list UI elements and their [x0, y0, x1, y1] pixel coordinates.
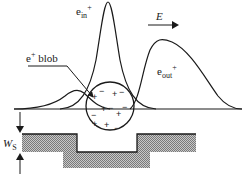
- charge: +: [101, 104, 106, 114]
- charge: −: [99, 86, 104, 96]
- charge: −: [122, 102, 127, 112]
- charge: −: [114, 123, 119, 133]
- charge: +: [92, 119, 97, 129]
- charge: +: [112, 89, 117, 99]
- charge: +: [116, 109, 121, 119]
- blob-label: e+ blob: [26, 53, 58, 64]
- charge: +: [104, 120, 109, 130]
- ws-bottom-arrowhead-icon: [16, 153, 24, 160]
- ws-label: WS: [3, 138, 17, 149]
- e-in-peak-curve: [60, 2, 156, 109]
- electron-blob-diagram: + − + − + − − + − + + −: [0, 0, 245, 177]
- e-in-label: ein+: [76, 6, 92, 17]
- e-out-peak-curve: [130, 40, 242, 109]
- field-label: E: [156, 11, 163, 22]
- field-arrowhead-icon: [172, 21, 179, 29]
- e-out-label: eout+: [157, 66, 177, 77]
- charge: −: [108, 103, 113, 113]
- charge: −: [119, 87, 124, 97]
- charge: +: [92, 92, 97, 102]
- substrate-step: [22, 134, 196, 168]
- ws-top-arrowhead-icon: [16, 126, 24, 133]
